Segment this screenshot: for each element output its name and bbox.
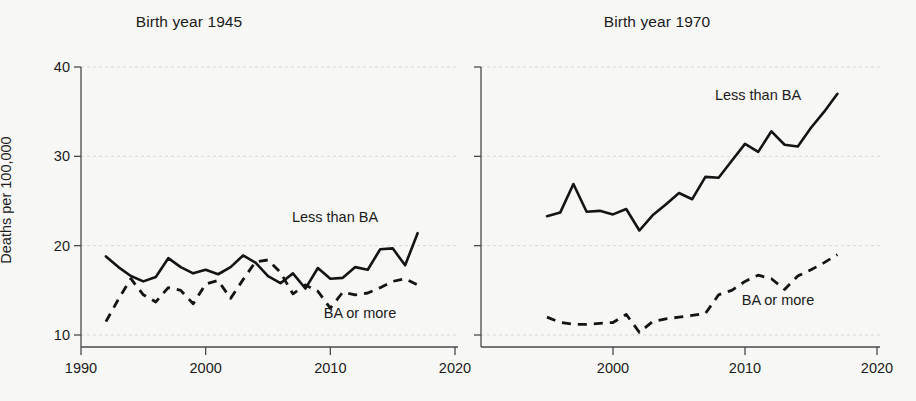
chart-svg-left: 102030401990200020102020Less than BABA o… [0,0,458,401]
y-tick-label-10: 10 [54,327,70,343]
chart-svg-right: 200020102020Less than BABA or more [458,0,916,401]
series-annotation-less-than-ba: Less than BA [715,87,802,103]
x-tick-label-2000: 2000 [597,360,629,376]
series-annotation-ba-or-more: BA or more [324,305,397,321]
panel-birth-year-1970: Birth year 1970 200020102020Less than BA… [458,0,916,401]
y-tick-label-20: 20 [54,238,70,254]
y-tick-label-30: 30 [54,148,70,164]
y-tick-label-40: 40 [54,59,70,75]
x-tick-label-1990: 1990 [65,360,97,376]
x-tick-label-2000: 2000 [190,360,222,376]
x-tick-label-2010: 2010 [314,360,346,376]
series-annotation-less-than-ba: Less than BA [292,209,379,225]
x-tick-label-2020: 2020 [861,360,893,376]
series-annotation-ba-or-more: BA or more [742,292,815,308]
series-line-solid [547,94,837,231]
x-tick-label-2010: 2010 [729,360,761,376]
figure-panels: Birth year 1945 Deaths per 100,000 10203… [0,0,916,401]
panel-birth-year-1945: Birth year 1945 Deaths per 100,000 10203… [0,0,458,401]
